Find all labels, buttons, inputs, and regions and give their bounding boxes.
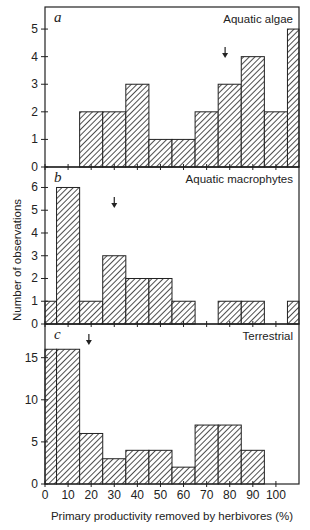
y-tick-label: 4	[31, 226, 38, 240]
y-tick-label: 6	[31, 180, 38, 194]
histogram-bar	[149, 139, 172, 167]
histogram-bar	[57, 187, 80, 324]
x-tick-label: 20	[85, 488, 99, 502]
x-tick-label: 30	[108, 488, 122, 502]
histogram-bar	[287, 301, 299, 324]
histogram-bar	[218, 84, 241, 167]
arrow-down-icon	[111, 197, 117, 208]
x-tick-label: 0	[42, 488, 49, 502]
histogram-bar	[241, 301, 264, 324]
histogram-bar	[80, 112, 103, 167]
histogram-bar	[103, 256, 126, 324]
x-tick-label: 90	[246, 488, 260, 502]
histogram-bar	[126, 450, 149, 484]
y-tick-label: 2	[31, 271, 38, 285]
histogram-bar	[195, 425, 218, 484]
x-axis: 0102030405060708090100	[42, 488, 287, 502]
histogram-bar	[241, 450, 264, 484]
y-tick-label: 15	[25, 351, 39, 365]
y-tick-label: 1	[31, 294, 38, 308]
histogram-bar	[80, 301, 103, 324]
histogram-bar	[287, 29, 299, 167]
panel-title: Aquatic macrophytes	[186, 173, 294, 185]
y-tick-label: 5	[31, 435, 38, 449]
histogram-bar	[172, 139, 195, 167]
histogram-bar	[218, 301, 241, 324]
panel-a: 012345aAquatic algae	[31, 7, 299, 174]
panel-letter: b	[54, 169, 62, 185]
panel-title: Aquatic algae	[223, 13, 293, 25]
histogram-bar	[126, 278, 149, 324]
arrow-down-icon	[86, 334, 92, 345]
y-tick-label: 5	[31, 203, 38, 217]
arrow-down-icon	[222, 47, 228, 58]
panel-c: 051015cTerrestrial	[25, 324, 299, 491]
histogram-bar	[80, 433, 103, 484]
histogram-bar	[45, 349, 57, 484]
histogram-bar	[126, 84, 149, 167]
histogram-chart: 012345aAquatic algae0123456bAquatic macr…	[0, 0, 310, 530]
x-tick-label: 70	[200, 488, 214, 502]
panel-letter: c	[54, 326, 61, 342]
y-tick-label: 2	[31, 105, 38, 119]
histogram-bar	[172, 301, 195, 324]
histogram-bar	[45, 301, 57, 324]
panel-title: Terrestrial	[243, 330, 293, 342]
y-tick-label: 3	[31, 77, 38, 91]
histogram-bar	[241, 57, 264, 167]
panel-b: 0123456bAquatic macrophytes	[31, 167, 299, 331]
y-tick-label: 0	[31, 317, 38, 331]
y-tick-label: 0	[31, 160, 38, 174]
histogram-bar	[149, 278, 172, 324]
x-tick-label: 50	[154, 488, 168, 502]
x-tick-label: 100	[266, 488, 286, 502]
panel-letter: a	[54, 9, 62, 25]
y-tick-label: 10	[25, 393, 39, 407]
y-axis-label: Number of observations	[11, 199, 23, 321]
histogram-bar	[218, 425, 241, 484]
x-tick-label: 10	[61, 488, 75, 502]
histogram-bar	[57, 349, 80, 484]
histogram-bar	[103, 112, 126, 167]
x-tick-label: 80	[223, 488, 237, 502]
y-tick-label: 1	[31, 132, 38, 146]
y-tick-label: 3	[31, 249, 38, 263]
y-tick-label: 5	[31, 22, 38, 36]
histogram-bar	[103, 459, 126, 484]
x-tick-label: 60	[177, 488, 191, 502]
chart-panels: 012345aAquatic algae0123456bAquatic macr…	[25, 7, 299, 491]
histogram-bar	[149, 450, 172, 484]
histogram-bar	[195, 112, 218, 167]
y-tick-label: 0	[31, 477, 38, 491]
x-axis-label: Primary productivity removed by herbivor…	[51, 510, 293, 522]
x-tick-label: 40	[131, 488, 145, 502]
y-tick-label: 4	[31, 50, 38, 64]
histogram-bar	[264, 112, 287, 167]
